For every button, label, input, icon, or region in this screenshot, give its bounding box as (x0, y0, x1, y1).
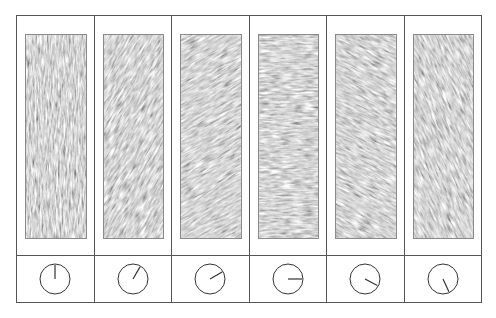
orientation-dial-icon (426, 262, 460, 296)
texture-cell (405, 16, 482, 256)
texture-cell (95, 16, 172, 256)
panel-column-6: 155° (405, 16, 482, 302)
texture-cell (172, 16, 249, 256)
oriented-noise-texture (25, 34, 87, 239)
orientation-figure: 0° 30° 60° 90° (16, 15, 482, 303)
dial-cell: 118° (327, 256, 404, 302)
panel-column-2: 30° (95, 16, 173, 302)
texture-cell (327, 16, 404, 256)
dial-cell: 90° (250, 256, 327, 302)
dial-cell: 155° (405, 256, 482, 302)
orientation-dial-icon (38, 262, 72, 296)
panel-column-3: 60° (172, 16, 250, 302)
orientation-dial-icon (348, 262, 382, 296)
orientation-dial-icon (193, 262, 227, 296)
dial-cell: 60° (172, 256, 249, 302)
texture-cell (250, 16, 327, 256)
oriented-noise-texture (335, 34, 397, 239)
texture-cell (17, 16, 94, 256)
dial-cell: 0° (17, 256, 94, 302)
oriented-noise-texture (180, 34, 242, 239)
panel-column-5: 118° (327, 16, 405, 302)
oriented-noise-texture (258, 34, 320, 239)
dial-cell: 30° (95, 256, 172, 302)
orientation-dial-icon (116, 262, 150, 296)
orientation-dial-icon (271, 262, 305, 296)
panel-column-4: 90° (250, 16, 328, 302)
oriented-noise-texture (413, 34, 475, 239)
panel-column-1: 0° (17, 16, 95, 302)
oriented-noise-texture (103, 34, 165, 239)
